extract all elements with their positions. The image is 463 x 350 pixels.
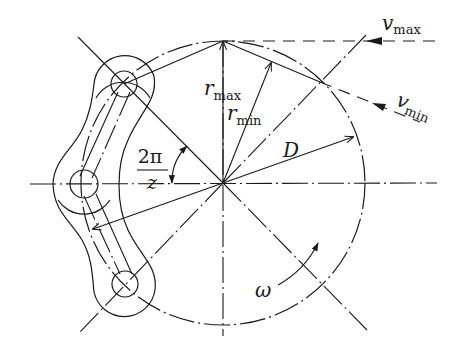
- label-D: D: [282, 138, 299, 162]
- label-r-min: rmin: [227, 101, 262, 128]
- vmin-arrow-icon: [372, 103, 386, 111]
- angle-arc: [172, 146, 187, 183]
- label-v-max: vmax: [382, 11, 421, 37]
- chain-sprocket-diagram: rmax rmin vmax vmin D ω 2π z: [0, 0, 463, 350]
- chord-right: [223, 41, 320, 82]
- label-omega: ω: [255, 278, 271, 302]
- label-angle-fraction: 2π z: [137, 145, 168, 193]
- svg-text:vmin: vmin: [392, 87, 436, 126]
- D-arrow-left: [93, 183, 223, 229]
- chain-link-outline: [53, 56, 155, 317]
- vmax-arrow-icon: [366, 37, 382, 45]
- horizontal-centerline: [30, 183, 437, 184]
- angle-numerator: 2π: [138, 145, 163, 167]
- label-v-min: vmin: [392, 87, 436, 126]
- omega-arrow: [278, 243, 318, 285]
- roller-arc-top: [96, 82, 150, 98]
- inner-plate-line-2: [92, 92, 130, 178]
- pin-bottom: [112, 271, 138, 297]
- diagonal-lower-right: [223, 183, 367, 330]
- angle-denominator: z: [146, 171, 158, 193]
